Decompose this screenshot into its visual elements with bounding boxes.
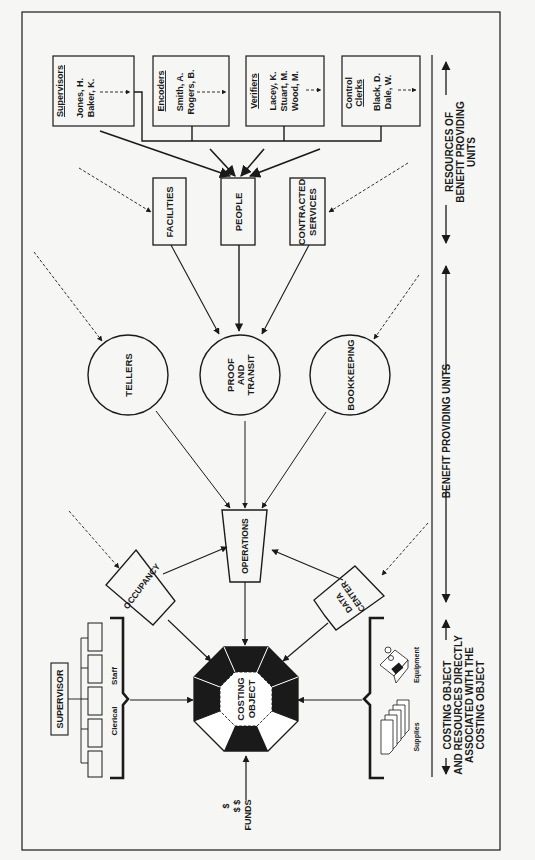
svg-text:Lacey, K.: Lacey, K. [268, 72, 278, 111]
svg-text:Equipment: Equipment [413, 646, 421, 683]
svg-text:Smith, A.: Smith, A. [175, 73, 185, 112]
equipment-label: Equipment [413, 646, 421, 683]
arrow-datacenter-to-operations [272, 550, 343, 580]
left-bracket [110, 618, 128, 778]
svg-text:Clerical: Clerical [110, 707, 119, 736]
box-people: PEOPLE [221, 178, 255, 245]
equipment-icon [380, 647, 408, 683]
box-supervisors: Supervisors Jones, H. Baker, K. [53, 56, 134, 126]
arrow-datacenter-to-costing [283, 623, 328, 661]
funds-label: FUNDS $ $ $ [221, 800, 253, 831]
svg-text:SERVICES: SERVICES [307, 188, 318, 236]
svg-text:COSTING OBJECT: COSTING OBJECT [475, 661, 486, 750]
svg-text:AND RESOURCES DIRECTLY: AND RESOURCES DIRECTLY [453, 635, 464, 775]
svg-text:TRANSIT: TRANSIT [245, 354, 256, 395]
arrows-into-operations [156, 411, 326, 508]
svg-text:OCCUPANCY: OCCUPANCY [121, 561, 162, 611]
supplies-icon [381, 700, 409, 754]
svg-text:FUNDS: FUNDS [243, 800, 253, 831]
circle-proof-and-transit: PROOF AND TRANSIT [200, 335, 280, 415]
svg-text:FACILITIES: FACILITIES [164, 186, 175, 237]
svg-text:Supervisors: Supervisors [55, 65, 65, 117]
svg-text:PEOPLE: PEOPLE [233, 193, 244, 232]
arrows-into-proof [171, 245, 309, 334]
operations-node: OPERATIONS [222, 510, 267, 582]
arrow-occupancy-to-operations [163, 547, 227, 574]
dashed-arrow-occupancy [69, 511, 119, 568]
svg-text:Baker, K.: Baker, K. [86, 79, 96, 118]
svg-text:TELLERS: TELLERS [123, 353, 134, 396]
svg-text:COSTING: COSTING [235, 677, 246, 720]
supplies-label: Supplies [413, 722, 421, 751]
svg-text:OPERATIONS: OPERATIONS [240, 518, 250, 574]
box-control-clerks: Control Clerks Black, D. Dale, W. [342, 56, 420, 126]
svg-text:Verifiers: Verifiers [249, 73, 259, 109]
svg-text:Jones, H.: Jones, H. [75, 78, 85, 118]
dashed-arrow-contracted [329, 163, 408, 212]
occupancy-node: OCCUPANCY [106, 550, 175, 625]
dashed-arrow-tellers [34, 252, 102, 341]
svg-text:Supplies: Supplies [413, 722, 421, 751]
svg-text:RESOURCES OF: RESOURCES OF [444, 112, 455, 192]
svg-text:BOOKKEEPING: BOOKKEEPING [345, 339, 356, 410]
svg-text:Staff: Staff [110, 667, 119, 685]
svg-text:$ $: $ $ [232, 800, 242, 813]
dashed-arrow-facilities [79, 168, 151, 212]
box-verifiers: Verifiers Lacey, K. Stuart, M. Wood, M. [246, 56, 324, 126]
svg-text:Black, D.: Black, D. [372, 73, 382, 111]
svg-text:COSTING OBJECT: COSTING OBJECT [442, 661, 453, 750]
svg-text:CONTRACTED: CONTRACTED [296, 179, 307, 246]
arrows-into-people [100, 131, 320, 176]
box-facilities: FACILITIES [153, 178, 186, 245]
label-benefit-providing-units: BENEFIT PROVIDING UNITS [441, 363, 452, 498]
costing-object-node: COSTING OBJECT [194, 647, 298, 751]
svg-text:Dale, W.: Dale, W. [383, 75, 393, 110]
costing-diagram: RESOURCES OF BENEFIT PROVIDING UNITS BEN… [0, 0, 535, 860]
svg-text:$: $ [221, 803, 231, 808]
box-encoders: Encoders Smith, A. Rogers, B. [153, 56, 229, 126]
box-contracted-services: CONTRACTED SERVICES [290, 178, 325, 245]
svg-text:OBJECT: OBJECT [246, 680, 257, 719]
svg-text:UNITS: UNITS [466, 137, 477, 167]
svg-text:ASSOCIATED WITH THE: ASSOCIATED WITH THE [464, 647, 475, 763]
dashed-arrow-bookkeeping [374, 275, 419, 339]
circle-tellers: TELLERS [88, 335, 168, 415]
svg-text:Control: Control [344, 77, 354, 109]
circle-bookkeeping: BOOKKEEPING [310, 335, 390, 415]
svg-text:Wood, M.: Wood, M. [290, 71, 300, 111]
svg-text:Clerks: Clerks [354, 79, 364, 107]
arrow-occupancy-to-costing [168, 620, 211, 661]
svg-text:BENEFIT PROVIDING: BENEFIT PROVIDING [455, 101, 466, 203]
supervisor-org-chart: SUPERVISOR Clerical Staff [51, 623, 119, 777]
svg-text:Stuart, M.: Stuart, M. [279, 70, 289, 111]
svg-text:Encoders: Encoders [156, 70, 166, 111]
svg-text:SUPERVISOR: SUPERVISOR [55, 669, 65, 728]
svg-text:BENEFIT PROVIDING UNITS: BENEFIT PROVIDING UNITS [441, 363, 452, 498]
svg-text:Rogers, B.: Rogers, B. [186, 69, 196, 114]
dashed-arrow-data-center [382, 523, 428, 575]
data-center-node: DATA CENTER [314, 566, 384, 630]
